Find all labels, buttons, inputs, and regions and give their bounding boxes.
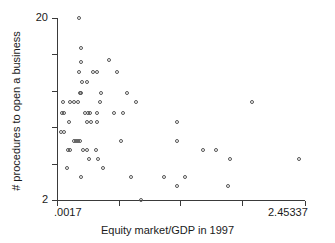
data-point bbox=[175, 120, 179, 124]
y-tick-label: 20 bbox=[36, 12, 48, 23]
y-tick-label: 2 bbox=[42, 194, 48, 205]
data-point bbox=[79, 175, 83, 179]
x-tick-mark bbox=[180, 201, 181, 206]
data-point bbox=[62, 130, 66, 134]
data-point bbox=[95, 120, 99, 124]
data-point bbox=[77, 70, 81, 74]
data-point bbox=[201, 148, 205, 152]
data-point bbox=[80, 80, 84, 84]
x-axis-title: Equity market/GDP in 1997 bbox=[0, 224, 335, 236]
data-point bbox=[175, 139, 179, 143]
data-point bbox=[85, 148, 89, 152]
x-tick-label: .0017 bbox=[54, 207, 82, 218]
data-point bbox=[98, 100, 102, 104]
data-point bbox=[85, 80, 89, 84]
data-point bbox=[175, 184, 179, 188]
data-point bbox=[115, 70, 119, 74]
data-point bbox=[112, 111, 116, 115]
data-point bbox=[228, 157, 232, 161]
data-point bbox=[101, 166, 105, 170]
data-point bbox=[99, 91, 103, 95]
data-point bbox=[62, 111, 66, 115]
x-tick-mark bbox=[242, 201, 243, 206]
data-point bbox=[121, 111, 125, 115]
data-point bbox=[88, 111, 92, 115]
data-point bbox=[95, 70, 99, 74]
data-point bbox=[125, 91, 129, 95]
data-point bbox=[214, 148, 218, 152]
data-point bbox=[96, 157, 100, 161]
x-tick-label: 2.45337 bbox=[268, 207, 308, 218]
data-point bbox=[129, 175, 133, 179]
x-tick-mark bbox=[119, 201, 120, 206]
data-point bbox=[95, 111, 99, 115]
data-point bbox=[89, 120, 93, 124]
data-point bbox=[79, 46, 83, 50]
data-point bbox=[119, 139, 123, 143]
data-point bbox=[134, 100, 138, 104]
x-axis-line bbox=[57, 200, 305, 201]
data-point bbox=[94, 148, 98, 152]
data-point bbox=[79, 91, 83, 95]
data-point bbox=[183, 175, 187, 179]
data-point bbox=[61, 100, 65, 104]
y-axis-title: # procedures to open a business bbox=[10, 16, 22, 206]
data-point bbox=[297, 157, 301, 161]
data-point bbox=[85, 120, 89, 124]
data-point bbox=[78, 139, 82, 143]
data-point bbox=[67, 120, 71, 124]
data-point bbox=[79, 60, 83, 64]
data-point bbox=[76, 100, 80, 104]
data-point bbox=[250, 100, 254, 104]
data-point bbox=[65, 166, 69, 170]
data-point bbox=[162, 175, 166, 179]
data-point bbox=[87, 157, 91, 161]
data-point bbox=[107, 58, 111, 62]
scatter-plot-screenshot: 202 .00172.45337 Equity market/GDP in 19… bbox=[0, 0, 335, 243]
data-point bbox=[77, 16, 81, 20]
plot-data-area bbox=[57, 18, 305, 200]
data-point bbox=[68, 148, 72, 152]
data-point bbox=[139, 198, 143, 202]
data-point bbox=[226, 184, 230, 188]
